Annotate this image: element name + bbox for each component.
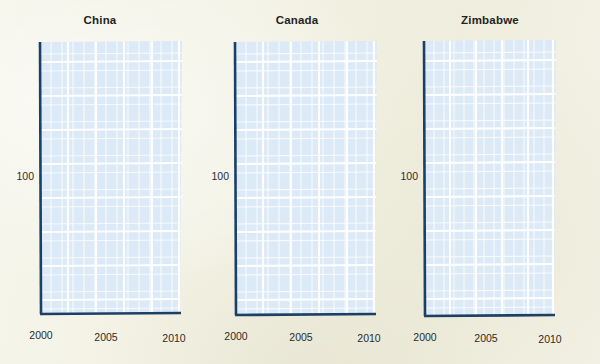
x-axis-line-zimbabwe	[424, 315, 555, 316]
y-axis-line-china	[40, 42, 41, 314]
x-axis-line-canada	[235, 314, 376, 315]
x-tick-label-canada-2010: 2010	[348, 332, 390, 344]
chart-panel-zimbabwe: Zimbabwe	[396, 0, 600, 364]
x-tick-label-zimbabwe-2000: 2000	[404, 331, 446, 343]
plot-area-canada: 100 2000 2005 2010	[197, 0, 397, 364]
y-tick-label-china: 100	[2, 170, 34, 182]
x-tick-label-china-2000: 2000	[20, 329, 62, 341]
x-tick-label-canada-2000: 2000	[215, 330, 257, 342]
plot-svg-zimbabwe	[396, 0, 600, 364]
x-tick-label-zimbabwe-2005: 2005	[465, 332, 507, 344]
y-axis-line-zimbabwe	[424, 41, 425, 316]
plot-svg-canada	[197, 0, 397, 364]
chart-panel-canada: Canada	[197, 0, 397, 364]
plot-area-zimbabwe: 100 2000 2005 2010	[396, 0, 600, 364]
y-axis-line-canada	[235, 42, 236, 315]
x-tick-label-china-2005: 2005	[85, 331, 127, 343]
small-multiples-chart: China	[0, 0, 600, 364]
x-tick-label-china-2010: 2010	[153, 332, 195, 344]
x-tick-label-zimbabwe-2010: 2010	[529, 333, 571, 345]
x-axis-line-china	[40, 313, 181, 314]
x-tick-label-canada-2005: 2005	[280, 331, 322, 343]
plot-area-china: 100 2000 2005 2010	[0, 0, 200, 364]
y-tick-label-zimbabwe: 100	[386, 170, 418, 182]
y-tick-label-canada: 100	[197, 170, 229, 182]
chart-panel-china: China	[0, 0, 200, 364]
plot-svg-china	[0, 0, 200, 364]
